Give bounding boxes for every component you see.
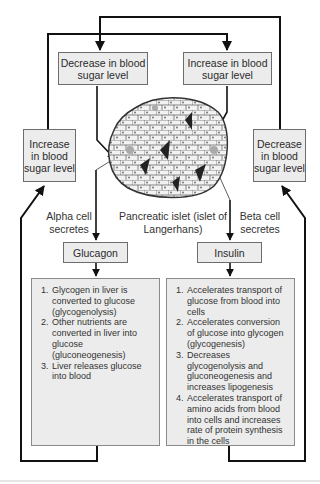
increase-left-label: Increase in blood sugar level [24, 138, 75, 174]
decrease-label: Decrease in blood sugar level [59, 57, 147, 81]
beta-cell-label: Beta cell secretes [234, 210, 286, 235]
glucagon-effect: Liver releases glucose into blood [51, 361, 153, 383]
glucagon-box: Glucagon [63, 242, 128, 263]
increase-label: Increase in blood sugar level [184, 57, 271, 81]
increase-blood-sugar-box-top: Increase in blood sugar level [183, 52, 272, 85]
decrease-right-label: Decrease in blood sugar level [254, 138, 305, 174]
insulin-label: Insulin [214, 247, 244, 259]
insulin-box: Insulin [197, 242, 262, 263]
insulin-effects-list: Accelerates transport of glucose from bl… [166, 278, 295, 446]
glucagon-effect: Other nutrients are converted in liver i… [51, 317, 153, 360]
pancreatic-islet-illustration [109, 98, 228, 198]
glucagon-effect: Glycogen in liver is converted to glucos… [51, 285, 153, 317]
insulin-effect: Accelerates transport of glucose from bl… [186, 285, 288, 317]
islet-label: Pancreatic islet (islet of Langerhans) [113, 210, 233, 235]
insulin-effect: Accelerates transport of amino acids fro… [186, 393, 288, 447]
insulin-effect: Accelerates conversion of glucose into g… [186, 317, 288, 349]
increase-blood-sugar-box-left: Increase in blood sugar level [23, 129, 76, 182]
insulin-effect: Decreases glycogenolysis and gluconeogen… [186, 350, 288, 393]
glucagon-effects-list: Glycogen in liver is converted to glucos… [31, 278, 160, 446]
glucagon-label: Glucagon [73, 247, 118, 259]
decrease-blood-sugar-box-top: Decrease in blood sugar level [58, 52, 148, 85]
decrease-blood-sugar-box-right: Decrease in blood sugar level [253, 129, 306, 182]
alpha-cell-label: Alpha cell secretes [41, 210, 97, 235]
divider [0, 480, 320, 482]
